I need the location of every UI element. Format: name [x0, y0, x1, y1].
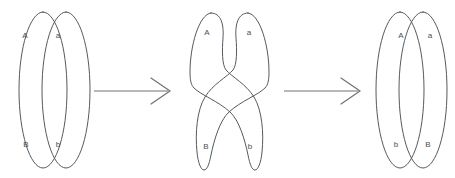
- label-stage-1-top-right: a: [56, 31, 61, 40]
- stage-2-chiasma-crossing: A a B b: [190, 13, 269, 170]
- label-stage-3-top-left: A: [398, 31, 404, 40]
- stage-1-paired-chromatids: A a B b: [19, 12, 90, 168]
- label-stage-1-top-left: A: [22, 31, 28, 40]
- arrow-2-stage-2-to-stage-3: [284, 78, 360, 104]
- arrow-1-stage-1-to-stage-2: [94, 78, 170, 104]
- label-stage-2-top-right: a: [247, 28, 252, 37]
- label-stage-2-bottom-left: B: [203, 142, 209, 151]
- diagram-canvas: A a B b A a B b: [0, 0, 455, 178]
- label-stage-1-bottom-left: B: [23, 140, 29, 149]
- chromatid-right-stage-1: [42, 12, 90, 168]
- label-stage-2-bottom-right: b: [248, 142, 253, 151]
- label-stage-3-top-right: a: [428, 31, 433, 40]
- label-stage-3-bottom-right: B: [425, 140, 431, 149]
- stage-3-recombined-chromatids: A a b B: [376, 12, 447, 168]
- label-stage-2-top-left: A: [204, 28, 210, 37]
- label-stage-1-bottom-right: b: [56, 140, 61, 149]
- chromatid-right-stage-3: [399, 12, 447, 168]
- label-stage-3-bottom-left: b: [394, 140, 399, 149]
- crossing-over-diagram: A a B b A a B b: [0, 0, 455, 178]
